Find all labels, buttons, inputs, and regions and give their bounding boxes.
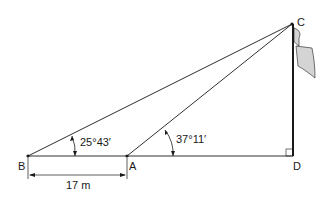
label-C: C <box>297 16 305 28</box>
point-A <box>125 154 128 157</box>
flag-icon <box>294 28 315 78</box>
angle-arc-B <box>70 136 77 156</box>
trig-diagram: B A D C 25°43′ 37°11′ 17 m <box>0 0 333 202</box>
sightline-BC <box>28 24 292 156</box>
right-angle-marker <box>286 149 293 156</box>
point-C <box>290 22 293 25</box>
sightline-AC <box>127 24 292 156</box>
angle-label-B: 25°43′ <box>80 136 111 148</box>
label-B: B <box>18 160 25 172</box>
label-D: D <box>293 160 301 172</box>
angle-arc-A <box>165 130 175 156</box>
distance-label: 17 m <box>66 179 90 191</box>
angle-label-A: 37°11′ <box>176 133 206 145</box>
dimension-BA <box>28 158 127 179</box>
label-A: A <box>129 160 137 172</box>
point-B <box>26 154 29 157</box>
